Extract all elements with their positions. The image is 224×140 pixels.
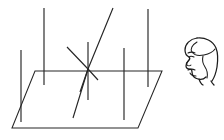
perspective-diagram	[0, 0, 224, 140]
ground-plane-parallelogram	[12, 71, 162, 128]
observer-head-profile	[185, 38, 218, 85]
nose	[187, 60, 191, 66]
eye	[189, 56, 194, 57]
convergence-rays-group	[67, 8, 113, 118]
hair-side-edge	[203, 56, 208, 78]
shallow-diagonal-ray	[67, 47, 98, 80]
diagram-canvas	[0, 0, 224, 140]
curved-descending-ray	[73, 69, 88, 118]
brow	[188, 52, 195, 53]
neck-back	[211, 81, 214, 85]
